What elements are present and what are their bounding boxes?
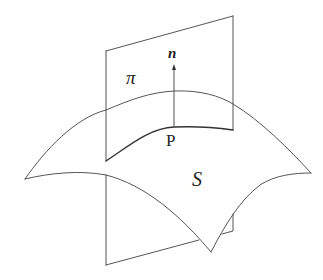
label-n: n xyxy=(168,45,176,61)
surface-front-left-edge xyxy=(25,172,211,252)
arrow-head-icon xyxy=(172,64,176,70)
label-p: P xyxy=(166,131,175,150)
surface-s xyxy=(25,91,311,252)
label-pi: π xyxy=(126,67,136,88)
surface-diagram: π n P S xyxy=(0,0,323,280)
label-s: S xyxy=(192,168,202,190)
plane-bottom-edge xyxy=(106,240,199,265)
surface-front-right-edge xyxy=(211,173,311,252)
normal-vector xyxy=(172,64,176,127)
